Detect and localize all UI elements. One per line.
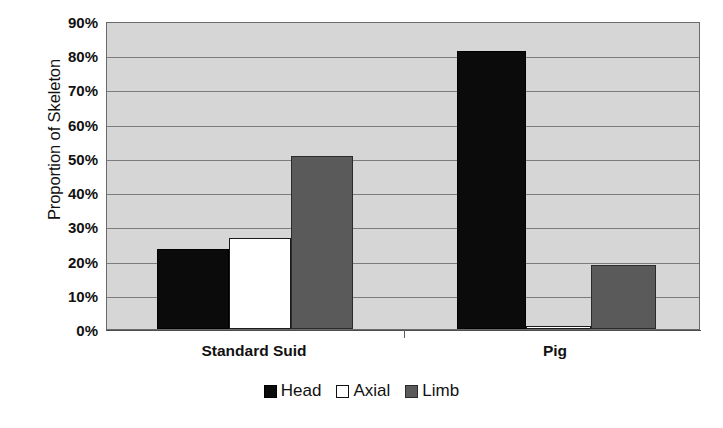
y-axis-tick-label: 0% [76,322,98,339]
legend-item-label: Head [281,381,322,401]
y-axis-tick-labels: 0%10%20%30%40%50%60%70%80%90% [30,22,98,330]
y-axis-tick-label: 90% [68,14,98,31]
bar-pig-limb [591,265,656,329]
legend-item-limb[interactable]: Limb [405,381,459,401]
y-axis-tick-label: 70% [68,82,98,99]
legend-item-label: Axial [353,381,390,401]
white-square-icon [336,385,349,398]
y-axis-tick-label: 10% [68,287,98,304]
bars-layer [107,23,699,329]
y-axis-tick-label: 30% [68,219,98,236]
x-axis-group-divider [404,330,405,338]
gray-square-icon [405,385,418,398]
x-axis-category-label: Pig [543,342,567,360]
x-axis-category-label: Standard Suid [201,342,306,360]
chart-legend: HeadAxialLimb [0,381,723,401]
legend-item-axial[interactable]: Axial [336,381,390,401]
bar-chart: Proportion of Skeleton 0%10%20%30%40%50%… [0,0,723,428]
y-axis-tick-label: 50% [68,150,98,167]
y-axis-tick-label: 20% [68,253,98,270]
y-axis-tick-label: 80% [68,48,98,65]
bar-standard-suid-axial [229,238,291,329]
bar-pig-axial [526,326,591,329]
bar-standard-suid-head [157,249,229,329]
y-axis-tick-label: 60% [68,116,98,133]
bar-pig-head [457,51,526,329]
bar-standard-suid-limb [291,156,353,329]
legend-item-head[interactable]: Head [264,381,322,401]
black-square-icon [264,385,277,398]
legend-item-label: Limb [422,381,459,401]
plot-area [106,22,700,330]
y-axis-tick-label: 40% [68,185,98,202]
